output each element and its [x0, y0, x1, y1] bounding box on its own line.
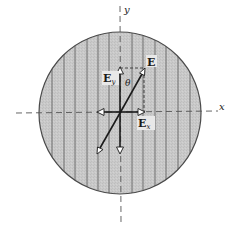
x-axis-label: x — [219, 101, 225, 112]
label-ey-main: E — [103, 72, 111, 85]
label-ex-sub: x — [146, 123, 150, 131]
y-axis-label: y — [123, 4, 130, 15]
label-ex-main: E — [138, 117, 146, 130]
polarizer-diagram: x y E Ey θ Ex — [0, 0, 234, 232]
label-e: E — [147, 56, 155, 69]
label-theta: θ — [125, 78, 131, 88]
